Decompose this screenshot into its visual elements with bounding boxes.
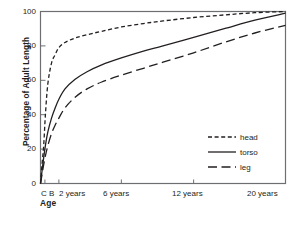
data-series-layer — [41, 12, 286, 184]
growth-chart-figure: Percentage of Adult Length 100 80 60 40 … — [0, 0, 297, 225]
legend-swatches — [208, 137, 236, 167]
series-line-leg — [41, 25, 286, 183]
plot-canvas — [0, 0, 297, 225]
x-axis-ticks — [41, 180, 286, 184]
series-line-head — [41, 12, 286, 184]
y-axis-ticks — [41, 12, 46, 184]
series-line-torso — [41, 13, 286, 183]
